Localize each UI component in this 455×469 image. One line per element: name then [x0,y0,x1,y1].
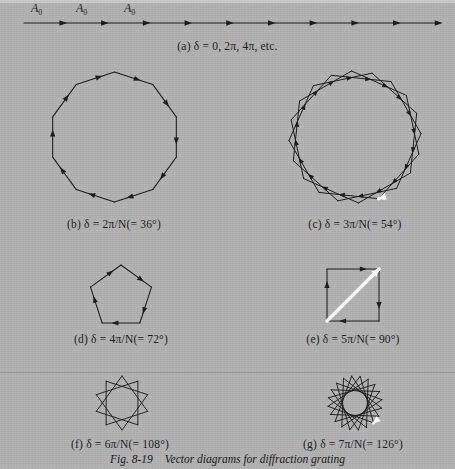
caption-panel-d: (d) δ = 4π/N(= 72°) [21,333,221,345]
vector-label-a0-2: A0 [76,1,87,17]
vector-label-a0-1: A0 [31,1,42,17]
figure-number: Fig. 8-19 [110,453,153,465]
panel-d-svg [78,258,164,330]
panel-c-svg [280,62,430,212]
figure-caption: Fig. 8-19Vector diagrams for diffraction… [0,453,455,465]
page-top-edge [0,0,455,3]
panel-a-svg [0,14,455,32]
figure-title: Vector diagrams for diffraction grating [165,453,345,465]
panel-g-svg [315,372,395,434]
vector-label-a0-3: A0 [124,1,135,17]
panel-f-diagram [82,372,162,434]
panel-a-diagram [0,14,455,32]
caption-panel-b: (b) δ = 2π/N(= 36°) [14,218,214,230]
panel-f-svg [82,372,162,434]
panel-e-svg [320,262,386,328]
caption-panel-a: (a) δ = 0, 2π, 4π, etc. [0,40,455,52]
caption-panel-f: (f) δ = 6π/N(= 108°) [20,438,220,450]
caption-panel-g: (g) δ = 7π/N(= 126°) [253,438,453,450]
caption-panel-e: (e) δ = 5π/N(= 90°) [253,333,453,345]
panel-d-diagram [78,258,164,330]
caption-panel-c: (c) δ = 3π/N(= 54°) [255,218,455,230]
panel-b-diagram [22,62,207,212]
panel-e-diagram [320,262,386,328]
panel-c-diagram [280,62,430,212]
panel-g-diagram [315,372,395,434]
panel-b-svg [22,62,207,212]
